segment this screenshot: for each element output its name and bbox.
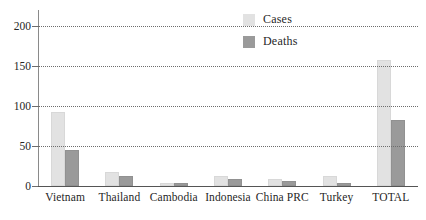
y-tick-label: 0 xyxy=(0,180,31,192)
bar-cases xyxy=(377,60,391,186)
plot-area xyxy=(38,10,418,186)
bar-chart: 050100150200 VietnamThailandCambodiaIndo… xyxy=(0,0,426,220)
x-label-china-prc: China PRC xyxy=(256,191,309,203)
y-tick-label: 200 xyxy=(0,20,31,32)
x-label-cambodia: Cambodia xyxy=(150,191,198,203)
bar-cases xyxy=(51,112,65,186)
bar-group xyxy=(364,10,418,186)
bar-deaths xyxy=(65,150,79,186)
bar-cases xyxy=(214,176,228,186)
bar-group xyxy=(38,10,92,186)
gridline-200 xyxy=(38,26,418,27)
x-label-indonesia: Indonesia xyxy=(205,191,251,203)
gridline-50 xyxy=(38,146,418,147)
cases-swatch-icon xyxy=(243,14,255,26)
bar-deaths xyxy=(228,179,242,186)
legend-item-cases[interactable]: Cases xyxy=(243,12,298,27)
legend-item-deaths[interactable]: Deaths xyxy=(243,34,298,49)
y-tick-label: 50 xyxy=(0,140,31,152)
legend-label: Cases xyxy=(263,12,292,27)
bar-cases xyxy=(105,172,119,186)
y-tick-label: 150 xyxy=(0,60,31,72)
bar-group xyxy=(92,10,146,186)
bar-deaths xyxy=(391,120,405,186)
legend-label: Deaths xyxy=(263,34,298,49)
gridline-100 xyxy=(38,106,418,107)
y-tick-label: 100 xyxy=(0,100,31,112)
bar-group xyxy=(309,10,363,186)
bar-cases xyxy=(323,176,337,186)
bar-deaths xyxy=(119,176,133,186)
chart-legend: CasesDeaths xyxy=(243,12,298,49)
x-label-turkey: Turkey xyxy=(320,191,353,203)
x-label-total: TOTAL xyxy=(372,191,409,203)
x-label-thailand: Thailand xyxy=(99,191,141,203)
gridline-150 xyxy=(38,66,418,67)
x-label-vietnam: Vietnam xyxy=(45,191,85,203)
deaths-swatch-icon xyxy=(243,36,255,48)
bar-group xyxy=(147,10,201,186)
bar-cases xyxy=(268,179,282,186)
axis-baseline xyxy=(38,186,418,187)
